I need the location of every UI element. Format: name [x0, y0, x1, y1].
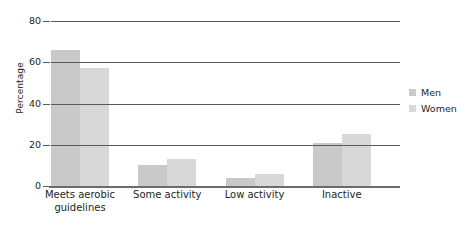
legend-label: Women	[421, 104, 457, 114]
gridline	[51, 145, 400, 146]
bar-men-0[interactable]	[51, 50, 80, 186]
y-tick-mark	[43, 62, 50, 63]
bar-men-3[interactable]	[313, 143, 342, 186]
bar-women-1[interactable]	[167, 159, 196, 186]
legend-swatch-icon	[409, 89, 416, 96]
legend-item-men[interactable]: Men	[409, 86, 469, 99]
bar-men-1[interactable]	[138, 165, 167, 186]
legend: MenWomen	[409, 86, 469, 118]
y-tick-mark	[43, 145, 50, 146]
bar-men-2[interactable]	[226, 178, 255, 186]
y-tick-label: 20	[11, 140, 41, 150]
legend-swatch-icon	[409, 105, 416, 112]
y-axis-tick-labels: 020406080	[9, 21, 41, 186]
legend-item-women[interactable]: Women	[409, 102, 469, 115]
x-category-label: Inactive	[282, 189, 402, 202]
gridline	[51, 21, 400, 22]
gridline	[51, 62, 400, 63]
x-category-label-line: Inactive	[282, 189, 402, 202]
x-axis-line	[49, 186, 400, 188]
y-tick-mark	[43, 104, 50, 105]
y-tick-label: 60	[11, 57, 41, 67]
y-tick-label: 80	[11, 16, 41, 26]
bar-women-0[interactable]	[80, 68, 109, 186]
gridline	[51, 104, 400, 105]
legend-label: Men	[421, 88, 441, 98]
x-category-label-line: guidelines	[20, 202, 140, 215]
x-axis-category-labels: Meets aerobicguidelinesSome activityLow …	[51, 189, 400, 229]
plot-area	[51, 21, 400, 186]
bar-women-2[interactable]	[255, 174, 284, 186]
bar-chart: Percentage 020406080 Meets aerobicguidel…	[0, 0, 470, 231]
y-tick-label: 40	[11, 99, 41, 109]
y-tick-mark	[43, 21, 50, 22]
bar-women-3[interactable]	[342, 134, 371, 186]
